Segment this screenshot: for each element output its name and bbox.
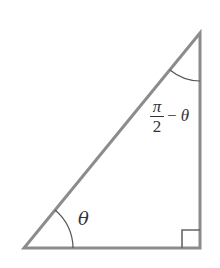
triangle-figure	[0, 0, 220, 268]
theta-symbol: θ	[181, 106, 189, 125]
two-denominator: 2	[150, 118, 164, 135]
complement-angle-arc	[170, 70, 200, 81]
minus-sign: −	[167, 106, 177, 125]
theta-angle-arc	[55, 210, 73, 248]
right-triangle-diagram: θ π 2 − θ	[0, 0, 220, 268]
pi-numerator: π	[150, 99, 164, 115]
right-angle-marker	[182, 230, 200, 248]
triangle-outline	[24, 33, 200, 248]
theta-label: θ	[78, 208, 89, 229]
complement-label-fraction: π 2	[150, 99, 164, 135]
complement-label-suffix: − θ	[167, 106, 189, 126]
